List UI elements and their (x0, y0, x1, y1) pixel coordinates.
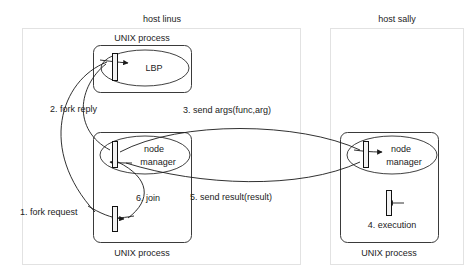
message-label-5-send-result: 5. send result(result) (190, 192, 272, 202)
activation-bar-sally-execution (387, 191, 392, 216)
process-label-sally-nodemanager: UNIX process (361, 248, 417, 258)
activation-bar-linus-process (113, 207, 118, 232)
component-label-linus-node-manager-line1: node (144, 144, 164, 154)
activation-bar-sally-node-manager (364, 142, 369, 168)
message-label-3-send-args: 3. send args(func,arg) (183, 105, 271, 115)
component-ellipse-sally-node-manager (347, 136, 437, 174)
process-label-linus-nodemanager: UNIX process (114, 248, 170, 258)
component-label-sally-node-manager-line1: node (391, 144, 411, 154)
sequence-diagram: host linus host sally UNIX process UNIX … (0, 0, 472, 279)
host-label-sally: host sally (378, 14, 416, 24)
host-label-linus: host linus (143, 14, 182, 24)
process-label-linus-lbp: UNIX process (114, 33, 170, 43)
activation-bar-linus-node-manager (113, 142, 118, 168)
message-label-2-fork-reply: 2. fork reply (50, 104, 98, 114)
message-label-6-join: 6. join (136, 193, 160, 203)
component-label-sally-node-manager-line2: manager (386, 157, 422, 167)
message-label-4-execution: 4. execution (368, 220, 417, 230)
component-label-linus-node-manager-line2: manager (140, 157, 176, 167)
message-arrow-1-fork-request (61, 62, 107, 212)
process-box-linus-lbp (94, 46, 192, 93)
message-arrow-6-join (118, 162, 144, 218)
component-label-lbp: LBP (145, 63, 162, 73)
message-label-1-fork-request: 1. fork request (20, 207, 78, 217)
activation-bar-lbp (113, 54, 118, 81)
diagram-canvas: host linus host sally UNIX process UNIX … (0, 0, 472, 279)
